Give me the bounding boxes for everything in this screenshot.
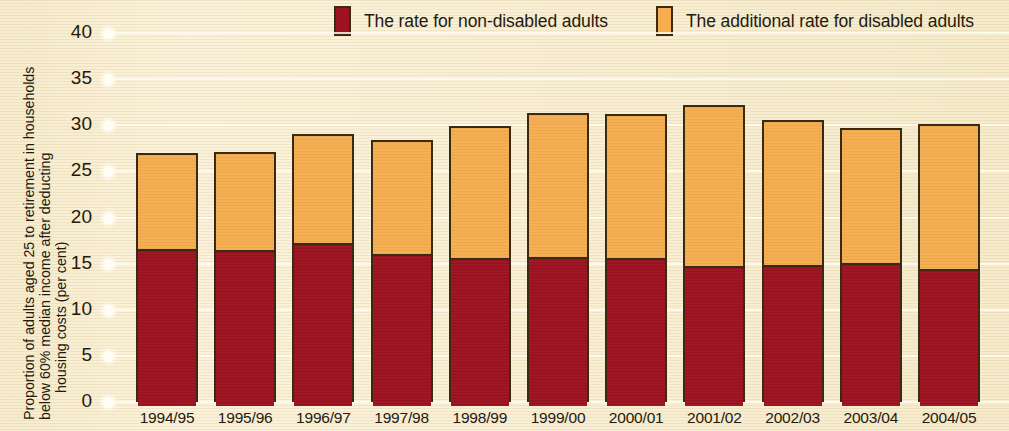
bar-segment-disabled-additional[interactable] [920,126,978,269]
bar-2002-03[interactable] [762,120,824,402]
bar-segment-disabled-additional[interactable] [451,128,509,258]
bar-segment-non-disabled[interactable] [373,254,431,406]
bar-segment-non-disabled[interactable] [529,257,587,406]
bar-segment-disabled-additional[interactable] [138,155,196,249]
bar-2004-05[interactable] [918,124,980,402]
bar-1996-97[interactable] [292,134,354,402]
bar-1995-96[interactable] [214,152,276,402]
x-axis-tick-label: 2003/04 [827,409,915,427]
bar-segment-non-disabled[interactable] [294,243,352,406]
bar-segment-non-disabled[interactable] [685,266,743,406]
bar-segment-disabled-additional[interactable] [373,142,431,254]
x-axis-tick-label: 2001/02 [670,409,758,427]
x-axis-tick-label: 1995/96 [201,409,289,427]
bar-2001-02[interactable] [683,105,745,402]
bar-2003-04[interactable] [840,128,902,402]
bar-segment-disabled-additional[interactable] [529,115,587,257]
bar-segment-non-disabled[interactable] [607,258,665,406]
bar-segment-non-disabled[interactable] [920,269,978,406]
bar-segment-disabled-additional[interactable] [842,130,900,263]
bar-segment-disabled-additional[interactable] [216,154,274,250]
x-axis-tick-label: 2000/01 [592,409,680,427]
bar-segment-non-disabled[interactable] [764,265,822,406]
bar-segment-non-disabled[interactable] [451,258,509,406]
bar-group: 1994/951995/961996/971997/981998/991999/… [0,0,1009,431]
bar-1998-99[interactable] [449,126,511,402]
bar-segment-disabled-additional[interactable] [294,136,352,244]
bar-1994-95[interactable] [136,153,198,402]
bar-segment-disabled-additional[interactable] [607,116,665,258]
bar-2000-01[interactable] [605,114,667,402]
x-axis-tick-label: 2002/03 [749,409,837,427]
bar-segment-disabled-additional[interactable] [685,107,743,266]
bar-1997-98[interactable] [371,140,433,402]
bar-segment-non-disabled[interactable] [216,250,274,406]
x-axis-tick-label: 1998/99 [436,409,524,427]
stacked-bar-chart: The rate for non-disabled adults The add… [0,0,1009,431]
x-axis-tick-label: 1999/00 [514,409,602,427]
bar-segment-non-disabled[interactable] [842,263,900,406]
x-axis-tick-label: 2004/05 [905,409,993,427]
bar-1999-00[interactable] [527,113,589,402]
bar-segment-disabled-additional[interactable] [764,122,822,265]
x-axis-tick-label: 1994/95 [123,409,211,427]
x-axis-tick-label: 1997/98 [358,409,446,427]
x-axis-tick-label: 1996/97 [279,409,367,427]
bar-segment-non-disabled[interactable] [138,249,196,406]
